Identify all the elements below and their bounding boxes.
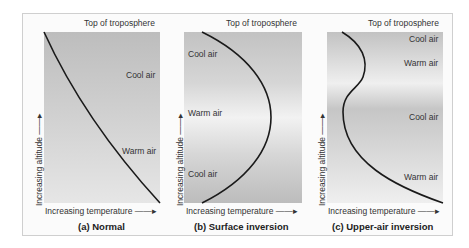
panel-c-y-axis-arrow-icon: ——▸ <box>317 113 327 135</box>
panel-c-plot: Cool air Warm air Cool air Warm air <box>327 32 443 203</box>
panel-c-y-axis-text: Increasing altitude <box>317 137 327 206</box>
panel-c-x-axis-label: Increasing temperature ——▸ <box>328 206 440 216</box>
panel-c-x-axis-arrow-icon: ——▸ <box>418 206 440 216</box>
panel-a-temperature-curve <box>44 32 160 203</box>
panel-c-label-cool-air-middle: Cool air <box>409 112 438 122</box>
panel-b-caption: (b) Surface inversion <box>194 221 289 232</box>
panel-a-label-warm-air: Warm air <box>122 146 156 156</box>
panel-a-plot: Cool air Warm air <box>44 32 160 203</box>
panel-b-top-label: Top of troposphere <box>226 18 297 28</box>
panel-b-x-axis-arrow-icon: ——▸ <box>276 206 298 216</box>
panel-c-x-axis-text: Increasing temperature <box>328 206 415 216</box>
panel-a-label-cool-air: Cool air <box>126 70 155 80</box>
panel-c-y-axis-label: Increasing altitude ——▸ <box>317 113 327 206</box>
panel-b-y-axis-text: Increasing altitude <box>175 137 185 206</box>
panel-a-y-axis-label: Increasing altitude ——▸ <box>34 113 44 206</box>
panel-c-label-cool-air-top: Cool air <box>409 34 438 44</box>
panel-b-label-cool-air-bottom: Cool air <box>188 169 217 179</box>
panel-b-x-axis-text: Increasing temperature <box>186 206 273 216</box>
panel-c-label-warm-air-top: Warm air <box>404 58 438 68</box>
panel-a-caption: (a) Normal <box>78 221 125 232</box>
panel-a-x-axis-label: Increasing temperature ——▸ <box>45 206 157 216</box>
panel-b-x-axis-label: Increasing temperature ——▸ <box>186 206 298 216</box>
panel-c-top-label: Top of troposphere <box>368 18 439 28</box>
panel-c-caption: (c) Upper-air inversion <box>332 221 433 232</box>
panel-b-label-cool-air-top: Cool air <box>188 49 217 59</box>
panel-a-x-axis-text: Increasing temperature <box>45 206 132 216</box>
panel-a-top-label: Top of troposphere <box>84 18 155 28</box>
panel-b-y-axis-arrow-icon: ——▸ <box>175 113 185 135</box>
panel-c-label-warm-air-bottom: Warm air <box>404 172 438 182</box>
panel-a-x-axis-arrow-icon: ——▸ <box>135 206 157 216</box>
panel-a-y-axis-text: Increasing altitude <box>34 137 44 206</box>
panel-b-label-warm-air: Warm air <box>188 108 222 118</box>
panel-b-plot: Cool air Warm air Cool air <box>184 32 302 203</box>
panel-b-y-axis-label: Increasing altitude ——▸ <box>175 113 185 206</box>
panel-a-y-axis-arrow-icon: ——▸ <box>34 113 44 135</box>
